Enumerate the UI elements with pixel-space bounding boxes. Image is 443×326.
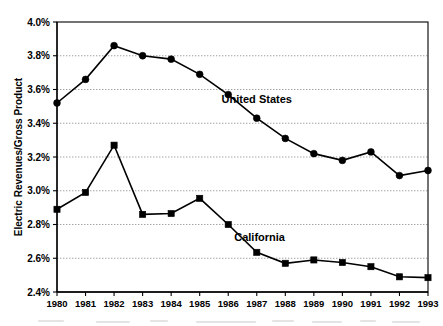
circle-marker-icon <box>168 56 175 63</box>
y-tick-label: 4.0% <box>27 17 50 28</box>
square-marker-icon <box>168 210 174 216</box>
scan-artifact <box>38 320 64 322</box>
series-label-united-states: United States <box>222 93 292 105</box>
scan-artifact <box>150 320 168 322</box>
x-tick-label: 1981 <box>75 298 97 309</box>
circle-marker-icon <box>310 150 317 157</box>
x-tick-label: 1982 <box>104 298 125 309</box>
series-label-california: California <box>234 231 286 243</box>
scan-artifact <box>96 321 130 323</box>
square-marker-icon <box>140 211 146 217</box>
x-axis-ticks-group: 1980198119821983198419851986198719881989… <box>46 292 438 309</box>
square-marker-icon <box>368 264 374 270</box>
x-tick-label: 1984 <box>161 298 183 309</box>
circle-marker-icon <box>425 167 432 174</box>
square-marker-icon <box>396 274 402 280</box>
x-tick-label: 1986 <box>218 298 239 309</box>
line-chart: 2.4%2.6%2.8%3.0%3.2%3.4%3.6%3.8%4.0% 198… <box>0 0 443 326</box>
y-tick-label: 2.8% <box>27 219 50 230</box>
x-tick-label: 1985 <box>189 298 211 309</box>
data-series-group <box>54 42 432 281</box>
square-marker-icon <box>54 206 60 212</box>
series-line <box>57 46 428 176</box>
y-tick-label: 2.6% <box>27 253 50 264</box>
y-tick-label: 3.0% <box>27 185 50 196</box>
gridlines-group <box>57 56 428 259</box>
series-united-states <box>54 42 432 179</box>
circle-marker-icon <box>82 76 89 83</box>
square-marker-icon <box>339 259 345 265</box>
x-tick-label: 1983 <box>132 298 153 309</box>
circle-marker-icon <box>196 71 203 78</box>
circle-marker-icon <box>339 157 346 164</box>
series-california <box>54 142 431 281</box>
x-tick-label: 1989 <box>303 298 324 309</box>
square-marker-icon <box>425 275 431 281</box>
y-axis-title: Electric Revenues/Gross Product <box>13 77 24 236</box>
y-tick-label: 3.6% <box>27 84 50 95</box>
x-tick-label: 1987 <box>246 298 267 309</box>
scan-artifact <box>272 320 294 322</box>
circle-marker-icon <box>139 52 146 59</box>
circle-marker-icon <box>368 149 375 156</box>
x-tick-label: 1992 <box>389 298 410 309</box>
scan-artifact <box>392 321 420 323</box>
circle-marker-icon <box>54 100 61 107</box>
scan-artifacts-group <box>38 320 420 323</box>
y-tick-label: 3.8% <box>27 50 50 61</box>
square-marker-icon <box>197 195 203 201</box>
x-tick-label: 1990 <box>332 298 353 309</box>
chart-container: 2.4%2.6%2.8%3.0%3.2%3.4%3.6%3.8%4.0% 198… <box>0 0 443 326</box>
square-marker-icon <box>82 189 88 195</box>
x-tick-label: 1980 <box>46 298 67 309</box>
y-tick-label: 2.4% <box>27 287 50 298</box>
x-tick-label: 1988 <box>275 298 296 309</box>
x-tick-label: 1993 <box>417 298 438 309</box>
square-marker-icon <box>311 257 317 263</box>
y-axis-ticks-group: 2.4%2.6%2.8%3.0%3.2%3.4%3.6%3.8%4.0% <box>27 17 57 298</box>
series-line <box>57 145 428 277</box>
circle-marker-icon <box>282 135 289 142</box>
x-tick-label: 1991 <box>360 298 382 309</box>
square-marker-icon <box>254 249 260 255</box>
square-marker-icon <box>282 260 288 266</box>
square-marker-icon <box>111 142 117 148</box>
scan-artifact <box>312 321 342 323</box>
y-tick-label: 3.2% <box>27 152 50 163</box>
scan-artifact <box>196 321 256 323</box>
circle-marker-icon <box>253 115 260 122</box>
circle-marker-icon <box>111 42 118 49</box>
square-marker-icon <box>225 221 231 227</box>
scan-artifact <box>360 320 376 322</box>
circle-marker-icon <box>396 172 403 179</box>
y-tick-label: 3.4% <box>27 118 50 129</box>
